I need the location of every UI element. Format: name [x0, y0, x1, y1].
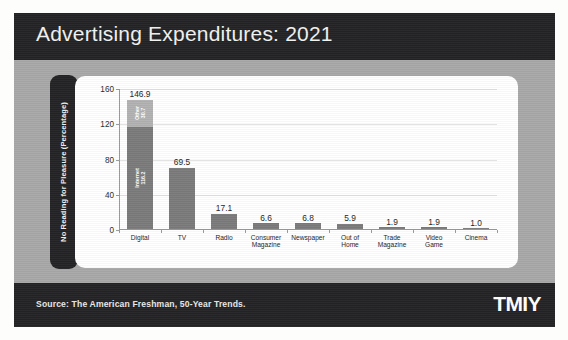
source-note: Source: The American Freshman, 50-Year T… — [36, 299, 246, 309]
segment-label-value: 30.7 — [140, 108, 146, 118]
bar-trade-magazine[interactable] — [379, 227, 404, 229]
x-axis-label-consumer-magazine: ConsumerMagazine — [245, 234, 287, 249]
x-label-line: Video — [426, 234, 443, 241]
segment-label-value: 116.2 — [140, 171, 146, 184]
x-label-line: Out of — [341, 234, 359, 241]
x-label-line: Trade — [384, 234, 401, 241]
bar-segment-internet-label: Internet116.2 — [134, 168, 146, 187]
x-axis-label-out-of-home: Out ofHome — [329, 234, 371, 249]
x-tick-mark — [203, 230, 204, 233]
x-axis-label-radio: Radio — [203, 234, 245, 241]
x-tick-mark — [455, 230, 456, 233]
y-tick-label: 40 — [105, 190, 114, 199]
x-tick-mark — [245, 230, 246, 233]
gridline — [120, 89, 497, 90]
bar-digital[interactable]: Other30.7Internet116.2 — [127, 100, 152, 229]
y-axis-title-text: No Reading for Pleasure (Percentage) — [59, 102, 68, 242]
y-tick-label: 0 — [109, 226, 114, 235]
bar-value-label: 17.1 — [203, 203, 245, 213]
bar-value-label: 1.0 — [455, 218, 497, 228]
x-label-line: TV — [178, 234, 186, 241]
x-axis-label-digital: Digital — [119, 234, 161, 241]
x-label-line: Newspaper — [291, 234, 324, 241]
x-label-line: Cinema — [465, 234, 488, 241]
bar-newspaper[interactable] — [295, 223, 320, 229]
x-axis-label-cinema: Cinema — [455, 234, 497, 241]
x-axis-line — [119, 229, 497, 230]
x-tick-mark — [287, 230, 288, 233]
y-tick-label: 120 — [100, 120, 114, 129]
x-tick-mark — [119, 230, 120, 233]
slide-canvas: Advertising Expenditures: 2021 No Readin… — [14, 13, 555, 327]
bar-video-game[interactable] — [421, 227, 446, 229]
bar-value-label: 1.9 — [371, 217, 413, 227]
slide-footer-bar: Source: The American Freshman, 50-Year T… — [14, 283, 555, 327]
slide-title-bar: Advertising Expenditures: 2021 — [14, 13, 555, 60]
plot-area: 04080120160Other30.7Internet116.2146.9Di… — [119, 89, 497, 230]
x-axis-label-tv: TV — [161, 234, 203, 241]
bar-value-label: 146.9 — [119, 89, 161, 99]
y-axis-title: No Reading for Pleasure (Percentage) — [59, 102, 68, 242]
tmiy-logo: TMIY — [493, 292, 541, 316]
page-title: Advertising Expenditures: 2021 — [36, 22, 333, 46]
y-tick-mark — [116, 124, 119, 125]
x-label-line: Game — [425, 241, 443, 248]
y-axis-title-tab: No Reading for Pleasure (Percentage) — [50, 75, 78, 269]
x-tick-mark — [161, 230, 162, 233]
y-tick-label: 80 — [105, 155, 114, 164]
bar-value-label: 5.9 — [329, 213, 371, 223]
x-label-line: Home — [341, 241, 359, 248]
x-tick-mark — [413, 230, 414, 233]
gridline — [120, 124, 497, 125]
bar-cinema[interactable] — [463, 228, 488, 229]
x-label-line: Digital — [131, 234, 149, 241]
x-label-line: Magazine — [378, 241, 407, 248]
bar-tv[interactable] — [169, 168, 194, 229]
y-tick-label: 160 — [100, 85, 114, 94]
x-axis-label-video-game: VideoGame — [413, 234, 455, 249]
bar-value-label: 1.9 — [413, 217, 455, 227]
x-label-line: Consumer — [251, 234, 281, 241]
x-axis-label-newspaper: Newspaper — [287, 234, 329, 241]
chart-panel: 04080120160Other30.7Internet116.2146.9Di… — [75, 76, 518, 268]
x-axis-label-trade-magazine: TradeMagazine — [371, 234, 413, 249]
bar-value-label: 69.5 — [161, 157, 203, 167]
bar-value-label: 6.8 — [287, 213, 329, 223]
bar-value-label: 6.6 — [245, 213, 287, 223]
x-tick-mark — [497, 230, 498, 233]
y-tick-mark — [116, 160, 119, 161]
x-tick-mark — [371, 230, 372, 233]
bar-radio[interactable] — [211, 214, 236, 229]
x-label-line: Magazine — [252, 241, 281, 248]
x-tick-mark — [329, 230, 330, 233]
y-tick-mark — [116, 195, 119, 196]
bar-consumer-magazine[interactable] — [253, 223, 278, 229]
bar-out-of-home[interactable] — [337, 224, 362, 229]
bar-segment-other[interactable]: Other30.7 — [127, 100, 152, 127]
x-label-line: Radio — [215, 234, 232, 241]
